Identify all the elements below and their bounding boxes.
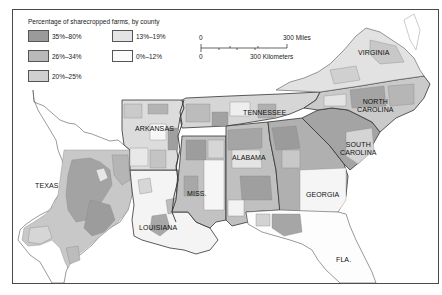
- arkansas-region: [122, 100, 184, 170]
- legend-label: 20%–25%: [52, 73, 82, 80]
- legend-swatch: [28, 30, 49, 42]
- scale-km-zero: 0: [199, 53, 203, 60]
- label-south-carolina-line2: CAROLINA: [340, 149, 377, 157]
- label-north-carolina: NORTH CAROLINA: [357, 98, 394, 114]
- scale-miles-zero: 0: [199, 34, 203, 41]
- label-georgia: GEORGIA: [306, 191, 339, 199]
- label-south-carolina-line1: SOUTH: [340, 141, 377, 149]
- legend-swatch: [112, 50, 133, 62]
- legend-title: Percentage of sharecropped farms, by cou…: [28, 18, 160, 25]
- legend-swatch: [28, 70, 49, 82]
- legend-label: 13%–19%: [136, 33, 166, 40]
- label-florida: FLA.: [336, 256, 351, 264]
- florida-region: [246, 210, 376, 283]
- legend-label: 26%–34%: [52, 53, 82, 60]
- label-arkansas: ARKANSAS: [135, 125, 174, 133]
- label-north-carolina-line1: NORTH: [357, 98, 394, 106]
- label-mississippi: MISS.: [187, 190, 207, 198]
- label-north-carolina-line2: CAROLINA: [357, 106, 394, 114]
- label-south-carolina: SOUTH CAROLINA: [340, 141, 377, 157]
- legend-item-26-34: 26%–34%: [28, 50, 82, 62]
- label-virginia: VIRGINIA: [358, 49, 390, 57]
- scale-km-label: 300 Kilometers: [250, 53, 293, 60]
- label-texas: TEXAS: [35, 182, 58, 190]
- legend-item-0-12: 0%–12%: [112, 50, 162, 62]
- legend-swatch: [28, 50, 49, 62]
- scale-miles-label: 300 Miles: [283, 34, 311, 41]
- label-tennessee: TENNESSEE: [243, 109, 286, 117]
- legend-item-20-25: 20%–25%: [28, 70, 82, 82]
- label-louisiana: LOUISIANA: [139, 224, 177, 232]
- label-alabama: ALABAMA: [232, 154, 266, 162]
- legend-swatch: [112, 30, 133, 42]
- scale-bar: [201, 44, 287, 52]
- legend-item-13-19: 13%–19%: [112, 30, 166, 42]
- legend-label: 35%–80%: [52, 33, 82, 40]
- legend-label: 0%–12%: [136, 53, 162, 60]
- legend-item-35-80: 35%–80%: [28, 30, 82, 42]
